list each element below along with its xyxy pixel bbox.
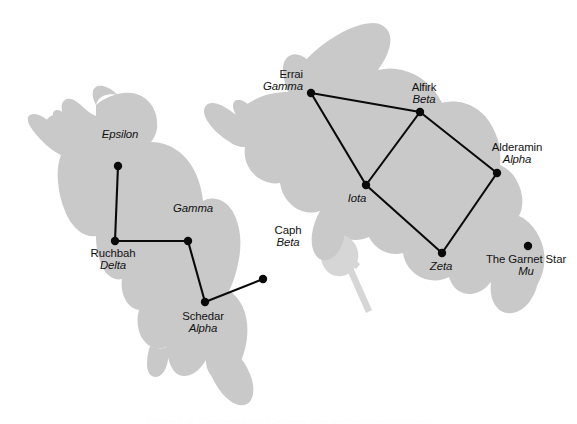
star-label-alderamin-common: Alderamin [492, 141, 542, 153]
star-label-garnet-star-common: The Garnet Star [486, 253, 566, 265]
star-label-iota-greek: Iota [348, 192, 367, 204]
star-label-schedar-common: Schedar [182, 310, 224, 322]
star-label-schedar: Schedar Alpha [182, 310, 224, 334]
star-label-gamma-cas: Gamma [173, 202, 213, 214]
star-dot-iota[interactable] [362, 181, 370, 189]
star-dot-alfirk[interactable] [416, 108, 424, 116]
star-label-iota: Iota [348, 192, 367, 204]
star-dot-alderamin[interactable] [493, 169, 501, 177]
star-label-ruchbah-common: Ruchbah [91, 247, 136, 259]
star-label-schedar-greek: Alpha [182, 322, 224, 334]
star-label-errai-common: Errai [263, 68, 303, 80]
star-label-errai-greek: Gamma [263, 80, 303, 92]
star-dot-garnet-star[interactable] [524, 242, 532, 250]
star-dot-schedar[interactable] [201, 298, 209, 306]
star-dot-caph[interactable] [259, 275, 267, 283]
star-label-alfirk: Alfirk Beta [412, 81, 437, 105]
star-dot-zeta[interactable] [438, 249, 446, 257]
star-label-alderamin-greek: Alpha [492, 153, 542, 165]
star-label-ruchbah: Ruchbah Delta [91, 247, 136, 271]
cassiopeia-lower-skirt [206, 347, 253, 406]
star-label-alfirk-greek: Beta [412, 93, 437, 105]
star-label-zeta: Zeta [430, 260, 452, 272]
star-label-epsilon-greek: Epsilon [102, 128, 139, 140]
star-label-garnet-star-greek: Mu [486, 265, 566, 277]
star-chart-figure: Epsilon Ruchbah Delta Gamma Schedar Alph… [0, 0, 577, 424]
star-label-garnet-star: The Garnet Star Mu [486, 253, 566, 277]
star-label-alfirk-common: Alfirk [412, 81, 437, 93]
star-dot-gamma[interactable] [184, 237, 192, 245]
star-label-ruchbah-greek: Delta [91, 259, 136, 271]
star-label-caph-greek: Beta [275, 236, 302, 248]
constellation-svg [0, 0, 577, 424]
star-dot-epsilon[interactable] [114, 162, 122, 170]
cassiopeia-foot [147, 346, 169, 377]
star-dot-ruchbah[interactable] [111, 237, 119, 245]
star-label-errai: Errai Gamma [263, 68, 303, 92]
star-label-caph-common: Caph [275, 224, 302, 236]
star-label-gamma-cas-greek: Gamma [173, 202, 213, 214]
star-dot-errai[interactable] [307, 89, 315, 97]
figure-caption: Figure 2-3. Cassiopeia and Cepheus, two … [0, 410, 577, 424]
star-label-epsilon: Epsilon [102, 128, 139, 140]
star-label-zeta-greek: Zeta [430, 260, 452, 272]
star-label-alderamin: Alderamin Alpha [492, 141, 542, 165]
star-label-caph: Caph Beta [275, 224, 302, 248]
